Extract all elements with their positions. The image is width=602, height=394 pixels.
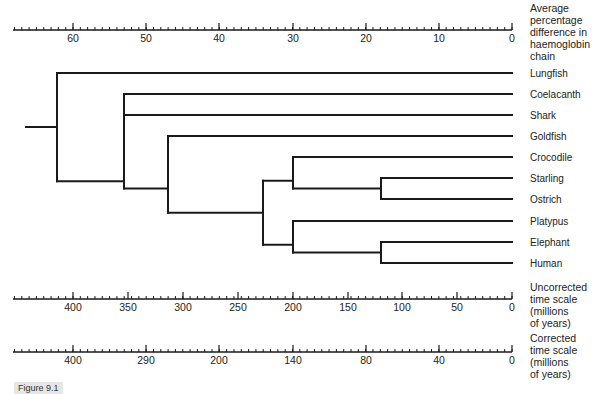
corrected-time-axis-title-line: (millions xyxy=(530,356,577,368)
corrected-time-axis-tick-label: 140 xyxy=(284,354,302,366)
leaf-label-human: Human xyxy=(530,258,562,269)
uncorrected-time-axis-tick-label: 300 xyxy=(174,301,192,313)
figure-caption: Figure 9.1 xyxy=(14,382,63,394)
haemoglobin-axis-title-line: difference in xyxy=(530,26,590,38)
leaf-label-coelacanth: Coelacanth xyxy=(530,89,581,100)
leaf-label-crocodile: Crocodile xyxy=(530,152,572,163)
uncorrected-time-axis-tick-label: 200 xyxy=(284,301,302,313)
leaf-label-platypus: Platypus xyxy=(530,216,568,227)
haemoglobin-axis-tick-label: 50 xyxy=(140,32,152,44)
corrected-time-axis-title-line: Corrected xyxy=(530,332,577,344)
uncorrected-time-axis-tick-label: 400 xyxy=(64,301,82,313)
haemoglobin-axis-tick-label: 40 xyxy=(213,32,225,44)
haemoglobin-axis-title-line: percentage xyxy=(530,14,590,26)
leaf-label-goldfish: Goldfish xyxy=(530,131,567,142)
haemoglobin-axis-title-line: haemoglobin xyxy=(530,38,590,50)
corrected-time-axis-tick-label: 0 xyxy=(509,354,515,366)
leaf-label-elephant: Elephant xyxy=(530,237,569,248)
leaf-label-starling: Starling xyxy=(530,173,564,184)
uncorrected-time-axis-tick-label: 50 xyxy=(451,301,463,313)
uncorrected-time-axis-tick-label: 0 xyxy=(509,301,515,313)
haemoglobin-axis-title: Averagepercentagedifference inhaemoglobi… xyxy=(530,2,590,62)
phylogenetic-tree xyxy=(26,73,512,263)
haemoglobin-axis-tick-label: 20 xyxy=(360,32,372,44)
uncorrected-time-axis-tick-label: 250 xyxy=(229,301,247,313)
leaf-label-ostrich: Ostrich xyxy=(530,194,562,205)
haemoglobin-axis-tick-label: 10 xyxy=(433,32,445,44)
corrected-time-axis-tick-label: 80 xyxy=(360,354,372,366)
leaf-label-shark: Shark xyxy=(530,110,556,121)
corrected-time-axis-tick-label: 200 xyxy=(210,354,228,366)
uncorrected-time-axis-title: Uncorrectedtime scale(millionsof years) xyxy=(530,281,587,329)
corrected-time-axis-title: Correctedtime scale(millionsof years) xyxy=(530,332,577,380)
haemoglobin-axis-tick-label: 60 xyxy=(67,32,79,44)
haemoglobin-axis-tick-label: 0 xyxy=(509,32,515,44)
haemoglobin-axis-title-line: chain xyxy=(530,50,590,62)
leaf-label-lungfish: Lungfish xyxy=(530,68,568,79)
uncorrected-time-axis-title-line: time scale xyxy=(530,293,587,305)
corrected-time-axis-title-line: time scale xyxy=(530,344,577,356)
corrected-time-axis-tick-label: 400 xyxy=(64,354,82,366)
corrected-time-axis-title-line: of years) xyxy=(530,368,577,380)
uncorrected-time-axis-title-line: (millions xyxy=(530,305,587,317)
uncorrected-time-axis-tick-label: 150 xyxy=(339,301,357,313)
uncorrected-time-axis-title-line: Uncorrected xyxy=(530,281,587,293)
uncorrected-time-axis-tick-label: 100 xyxy=(393,301,411,313)
uncorrected-time-axis-tick-label: 350 xyxy=(119,301,137,313)
haemoglobin-axis-title-line: Average xyxy=(530,2,590,14)
uncorrected-time-axis-title-line: of years) xyxy=(530,317,587,329)
haemoglobin-axis-tick-label: 30 xyxy=(287,32,299,44)
corrected-time-axis-tick-label: 290 xyxy=(137,354,155,366)
corrected-time-axis-tick-label: 40 xyxy=(433,354,445,366)
